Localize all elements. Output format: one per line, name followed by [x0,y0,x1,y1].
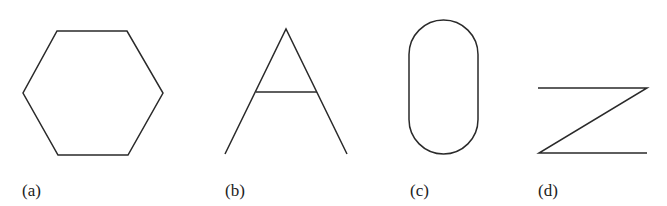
z-shape [538,88,647,153]
panel-label-c: (c) [410,181,429,200]
panel-a: (a) [22,31,163,200]
panel-b: (b) [225,29,347,200]
panel-label-d: (d) [538,181,558,200]
panel-d: (d) [538,88,647,200]
figure-canvas: (a) (b) (c) (d) [0,0,667,206]
panel-label-b: (b) [225,181,245,200]
stadium-shape [409,20,478,154]
panel-label-a: (a) [22,181,41,200]
panel-c: (c) [409,20,478,200]
hexagon-shape [23,31,163,155]
